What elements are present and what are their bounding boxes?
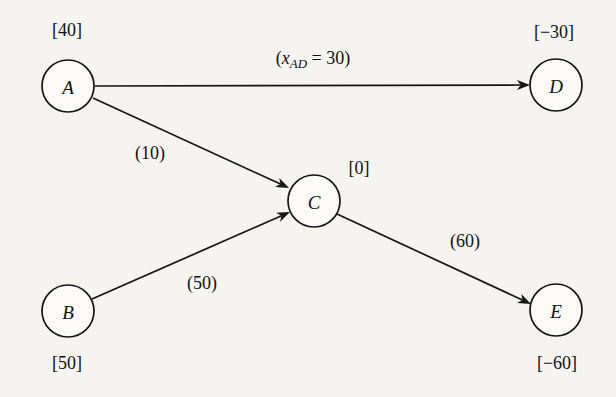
supply-label-a: [40]	[52, 20, 82, 40]
edge-label-a-to-d-suffix: = 30)	[307, 48, 350, 69]
node-c[interactable]: C	[288, 175, 340, 227]
edge-label-b-to-c: (50)	[187, 273, 217, 294]
edge-a-to-c[interactable]	[93, 98, 289, 188]
edge-a-to-c-line	[93, 98, 280, 184]
node-e[interactable]: E	[530, 284, 582, 336]
node-c-label: C	[308, 192, 321, 213]
node-e-label: E	[549, 301, 562, 322]
edge-label-a-to-d-subscript: AD	[289, 56, 308, 71]
supply-label-c: [0]	[349, 158, 370, 178]
edge-label-c-to-e: (60)	[450, 231, 480, 252]
supply-label-b: [50]	[52, 353, 82, 373]
supply-label-e: [−60]	[537, 353, 577, 373]
network-flow-diagram: (xAD = 30) (10) (50) (60) A B C	[0, 0, 616, 397]
edge-c-to-e[interactable]	[337, 214, 531, 304]
node-a[interactable]: A	[42, 60, 94, 112]
node-b[interactable]: B	[42, 285, 94, 337]
edge-label-a-to-d: (xAD = 30)	[276, 48, 351, 71]
edge-c-to-e-line	[337, 214, 523, 300]
edge-label-a-to-d-variable: x	[281, 48, 290, 68]
edge-a-to-d-line	[95, 85, 521, 86]
nodes-layer: A B C D E	[42, 59, 582, 337]
network-diagram-canvas: (xAD = 30) (10) (50) (60) A B C	[0, 0, 616, 397]
edge-a-to-d[interactable]	[95, 80, 530, 90]
node-d-label: D	[548, 76, 563, 97]
edge-label-a-to-c: (10)	[135, 143, 165, 164]
node-a-label: A	[60, 77, 74, 98]
node-d[interactable]: D	[530, 59, 582, 111]
supply-label-d: [−30]	[534, 22, 574, 42]
node-b-label: B	[62, 302, 74, 323]
